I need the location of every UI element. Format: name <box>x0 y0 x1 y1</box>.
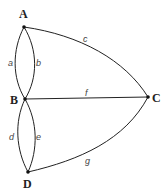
edge-label-f: f <box>85 88 89 98</box>
edge-label-g: g <box>85 156 90 166</box>
edge-label-c: c <box>83 34 88 44</box>
edge-label-e: e <box>36 132 41 142</box>
node-label-b: B <box>10 93 18 107</box>
graph-diagram: A B C D a b c f d e g <box>0 0 167 194</box>
edge-a <box>15 27 25 99</box>
edge-d <box>18 99 28 172</box>
node-label-d: D <box>23 177 32 191</box>
edge-e <box>25 99 35 172</box>
node-label-a: A <box>19 7 28 21</box>
edge-label-b: b <box>36 58 41 68</box>
node-a <box>22 25 26 29</box>
edge-label-a: a <box>8 58 13 68</box>
node-b <box>23 97 27 101</box>
node-c <box>146 95 150 99</box>
edge-b <box>24 27 35 99</box>
node-label-c: C <box>152 91 161 105</box>
edge-label-d: d <box>9 132 15 142</box>
node-d <box>26 170 30 174</box>
